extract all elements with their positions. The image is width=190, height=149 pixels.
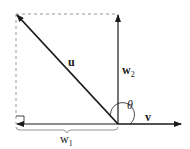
vector-u	[17, 15, 118, 124]
label-w2: w2	[122, 63, 135, 79]
label-w1: w1	[60, 132, 73, 148]
label-u: u	[68, 55, 75, 69]
label-v: v	[145, 110, 151, 124]
label-theta: θ	[127, 98, 133, 112]
right-angle-marker	[16, 116, 24, 124]
vector-diagram: u w2 θ v w1	[0, 0, 190, 149]
